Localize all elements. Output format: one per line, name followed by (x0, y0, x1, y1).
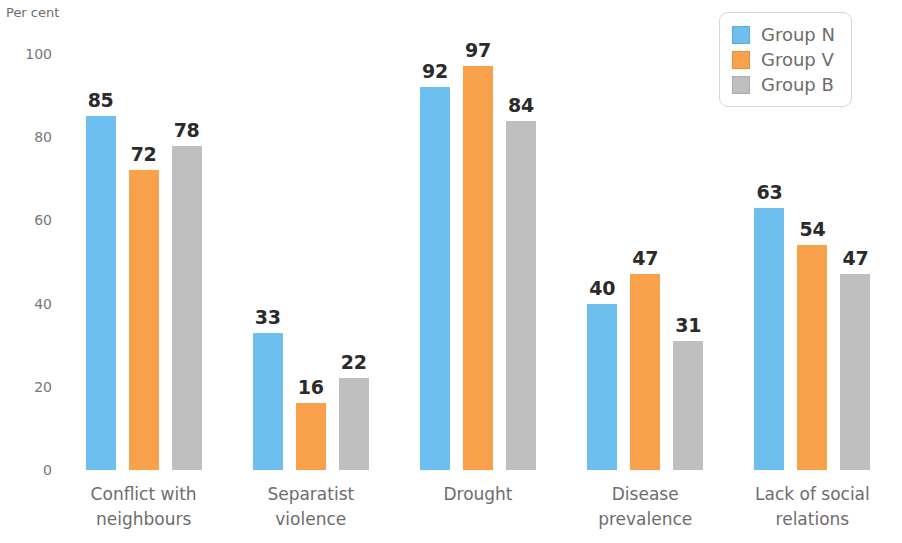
bar[interactable] (129, 170, 159, 470)
bar-column[interactable]: 54 (797, 54, 827, 470)
bar-value-label: 40 (589, 277, 615, 299)
x-axis-category-label: Drought (394, 482, 561, 507)
y-axis-tick-label: 0 (6, 462, 52, 478)
bar-column[interactable]: 72 (129, 54, 159, 470)
bar-group-bars: 929784 (394, 54, 561, 470)
bar-column[interactable]: 92 (420, 54, 450, 470)
y-axis-tick-label: 60 (6, 212, 52, 228)
bar-value-label: 72 (131, 143, 157, 165)
y-axis-tick-label: 80 (6, 129, 52, 145)
bar-value-label: 22 (341, 351, 367, 373)
bar[interactable] (840, 274, 870, 470)
bar[interactable] (673, 341, 703, 470)
y-axis-tick-label: 100 (6, 46, 52, 62)
bar-column[interactable]: 47 (630, 54, 660, 470)
bar-column[interactable]: 22 (339, 54, 369, 470)
bar[interactable] (463, 66, 493, 470)
bar[interactable] (797, 245, 827, 470)
bar-group-bars: 635447 (729, 54, 896, 470)
bar-value-label: 31 (675, 314, 701, 336)
y-axis-tick-label: 20 (6, 379, 52, 395)
bar-value-label: 85 (88, 89, 114, 111)
bar-group: 331622 (227, 54, 394, 470)
bar-group-bars: 857278 (60, 54, 227, 470)
bar-group: 404731 (562, 54, 729, 470)
bar-value-label: 16 (298, 376, 324, 398)
x-axis-category-label: Separatist violence (227, 482, 394, 532)
bar-value-label: 54 (799, 218, 825, 240)
bar[interactable] (420, 87, 450, 470)
legend-item-label: Group N (761, 24, 835, 45)
bar-group: 635447 (729, 54, 896, 470)
bar-column[interactable]: 33 (253, 54, 283, 470)
bar-column[interactable]: 84 (506, 54, 536, 470)
bar[interactable] (630, 274, 660, 470)
x-axis-category-label: Disease prevalence (562, 482, 729, 532)
bar-column[interactable]: 47 (840, 54, 870, 470)
bar-column[interactable]: 31 (673, 54, 703, 470)
bar[interactable] (253, 333, 283, 470)
bar[interactable] (339, 378, 369, 470)
bar-column[interactable]: 63 (754, 54, 784, 470)
bar-value-label: 47 (632, 247, 658, 269)
bar-value-label: 92 (422, 60, 448, 82)
bar-column[interactable]: 40 (587, 54, 617, 470)
bar[interactable] (172, 146, 202, 470)
bar-value-label: 63 (756, 181, 782, 203)
bar[interactable] (296, 403, 326, 470)
bar-column[interactable]: 85 (86, 54, 116, 470)
x-axis-category-label: Lack of social relations (729, 482, 896, 532)
bar-value-label: 33 (255, 306, 281, 328)
x-axis-category-label: Conflict with neighbours (60, 482, 227, 532)
bar-group-bars: 331622 (227, 54, 394, 470)
bar-value-label: 84 (508, 94, 534, 116)
bar-column[interactable]: 97 (463, 54, 493, 470)
bar-value-label: 97 (465, 39, 491, 61)
bar-column[interactable]: 16 (296, 54, 326, 470)
bar-group: 857278 (60, 54, 227, 470)
legend-item[interactable]: Group N (732, 22, 835, 47)
bar-group-bars: 404731 (562, 54, 729, 470)
bar-value-label: 47 (842, 247, 868, 269)
bar[interactable] (86, 116, 116, 470)
y-axis: 020406080100 (0, 0, 52, 543)
bar-value-label: 78 (174, 119, 200, 141)
bar-column[interactable]: 78 (172, 54, 202, 470)
bar-chart: Per cent 020406080100 Group NGroup VGrou… (0, 0, 902, 543)
bar[interactable] (587, 304, 617, 470)
bar[interactable] (754, 208, 784, 470)
legend-swatch-icon (732, 26, 750, 44)
bar[interactable] (506, 121, 536, 470)
bar-group: 929784 (394, 54, 561, 470)
y-axis-tick-label: 40 (6, 296, 52, 312)
